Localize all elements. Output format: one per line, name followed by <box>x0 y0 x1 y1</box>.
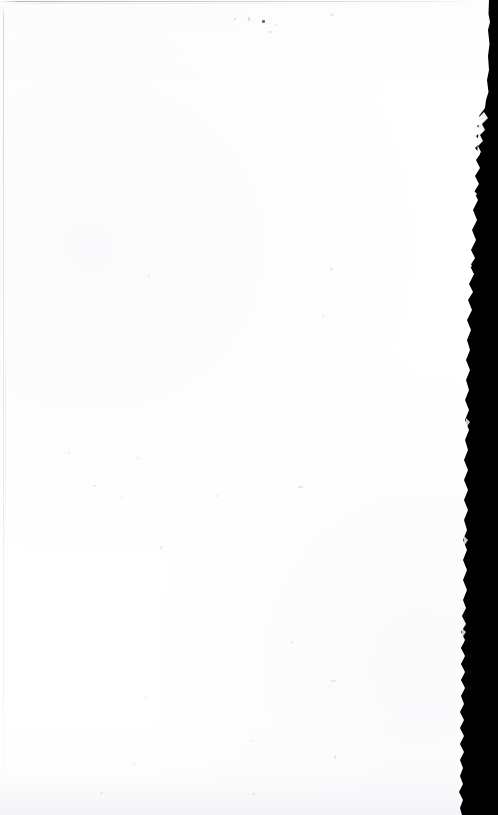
top-border-rule-secondary <box>0 3 470 4</box>
scan-edge-border <box>458 0 498 815</box>
scan-edge-shape <box>458 0 498 815</box>
bottom-shading-band <box>0 769 478 815</box>
scanned-page <box>0 0 498 815</box>
left-margin-rule <box>3 4 4 804</box>
left-margin-rule-secondary <box>5 330 6 580</box>
top-border-rule <box>0 1 478 2</box>
page-body-text <box>40 60 440 740</box>
